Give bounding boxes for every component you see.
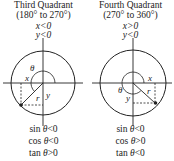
third-quadrant-panel: Third Quadrant (180° to 270°) x<0 y<0 θ …: [0, 0, 87, 161]
cos-sign: cos θ>0: [87, 136, 174, 147]
theta-label: θ: [118, 85, 123, 95]
point: [154, 101, 158, 105]
y-label: y: [125, 93, 130, 103]
fourth-quadrant-panel: Fourth Quadrant (270° to 360°) x>0 y<0 θ…: [87, 0, 174, 161]
sin-sign: sin θ<0: [0, 124, 87, 135]
cos-sign: cos θ<0: [0, 136, 87, 147]
radius-line: [133, 83, 155, 103]
point: [19, 103, 23, 107]
tan-sign: tan θ<0: [87, 148, 174, 159]
x-label: x: [147, 73, 152, 83]
theta-label: θ: [30, 63, 35, 73]
r-label: r: [36, 93, 40, 103]
sin-sign: sin θ<0: [87, 124, 174, 135]
radius-line: [21, 83, 43, 105]
r-label: r: [147, 86, 151, 96]
x-label: x: [24, 73, 29, 83]
y-label: y: [45, 90, 50, 100]
tan-sign: tan θ>0: [0, 148, 87, 159]
